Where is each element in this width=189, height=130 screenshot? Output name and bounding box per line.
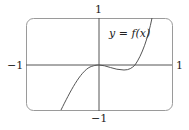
x-min-label: −1 [7, 60, 23, 71]
y-max-label: 1 [95, 4, 102, 15]
y-min-label: −1 [91, 113, 107, 124]
function-label: y = f(x) [109, 28, 150, 39]
function-graph [0, 0, 189, 130]
x-max-label: 1 [176, 60, 183, 71]
